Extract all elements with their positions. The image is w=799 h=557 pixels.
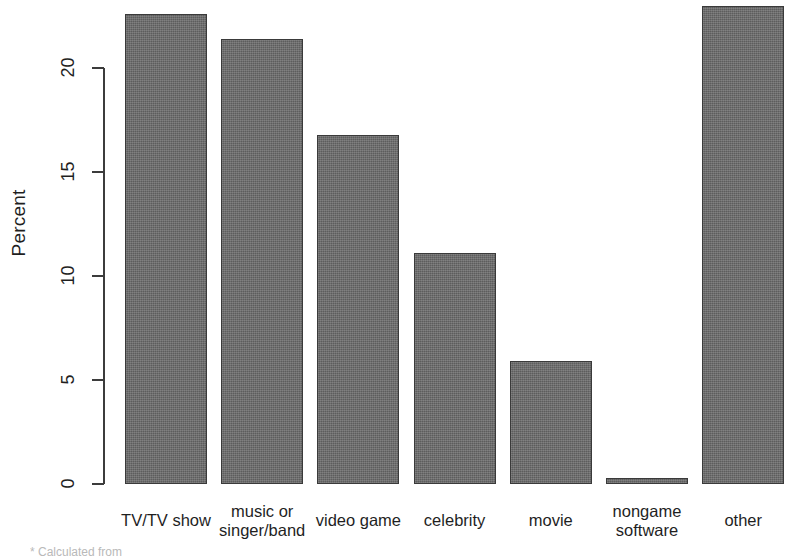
x-axis-label: other — [683, 511, 799, 530]
bar — [317, 135, 399, 484]
bar — [414, 253, 496, 484]
bar-chart: Percent 05101520 TV/TV showmusic or sing… — [0, 0, 799, 557]
footnote-text: * Calculated from — [30, 545, 122, 557]
bar — [510, 361, 592, 484]
bar — [606, 478, 688, 484]
plot-area — [0, 0, 799, 557]
bar — [221, 39, 303, 484]
bar — [125, 14, 207, 484]
bar — [702, 6, 784, 484]
